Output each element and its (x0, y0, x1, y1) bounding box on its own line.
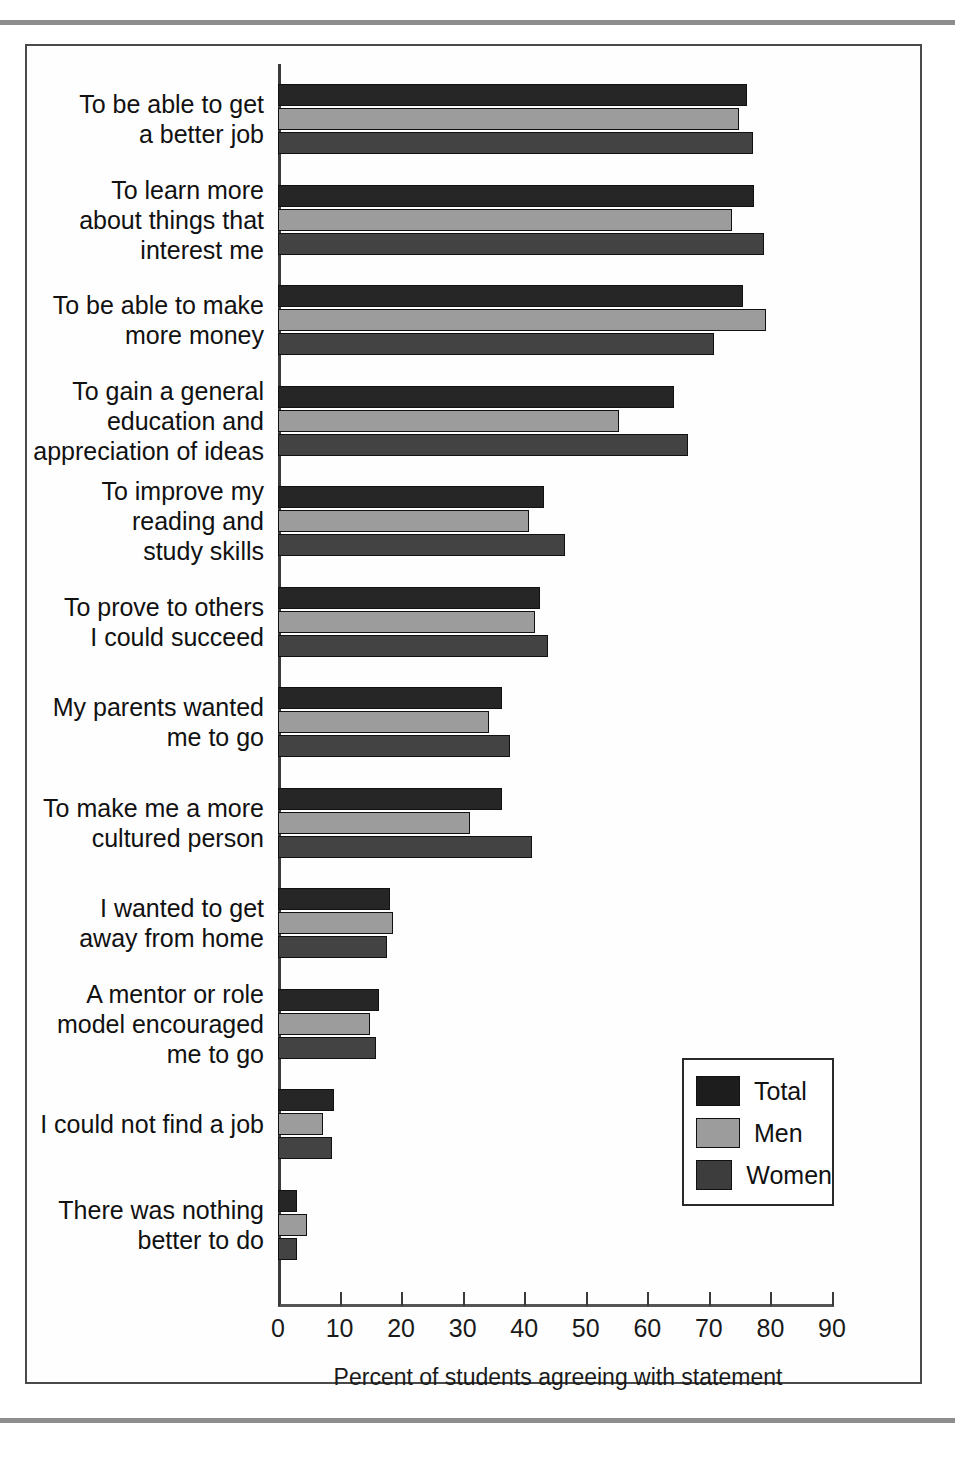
bar-group: To be able to get a better job (278, 84, 878, 154)
bar-men (278, 108, 739, 130)
bar-total (278, 788, 502, 810)
x-tick-label: 80 (748, 1314, 792, 1343)
bar-men (278, 711, 489, 733)
bar-women (278, 434, 688, 456)
top-rule (0, 20, 955, 25)
x-tick-label: 50 (564, 1314, 608, 1343)
bar-men (278, 1113, 323, 1135)
bar-men (278, 410, 619, 432)
x-tick-label: 10 (318, 1314, 362, 1343)
x-axis-line (278, 1304, 834, 1307)
legend-label-men: Men (754, 1119, 803, 1148)
legend-label-women: Women (746, 1161, 832, 1190)
x-tick-label: 0 (256, 1314, 300, 1343)
bar-group: To improve my reading and study skills (278, 486, 878, 556)
bar-total (278, 687, 502, 709)
x-tick (278, 1292, 280, 1306)
bar-group: To be able to make more money (278, 285, 878, 355)
bar-women (278, 132, 753, 154)
x-tick-label: 90 (810, 1314, 854, 1343)
bar-total (278, 486, 544, 508)
legend-label-total: Total (754, 1077, 807, 1106)
bar-men (278, 510, 529, 532)
x-tick (770, 1292, 772, 1306)
bar-total (278, 1190, 297, 1212)
x-tick (524, 1292, 526, 1306)
bar-men (278, 1214, 307, 1236)
category-label: To improve my reading and study skills (0, 476, 264, 566)
bar-total (278, 185, 754, 207)
bar-women (278, 1238, 297, 1260)
category-label: I wanted to get away from home (0, 893, 264, 953)
bar-total (278, 989, 379, 1011)
x-tick (647, 1292, 649, 1306)
bar-group: A mentor or role model encouraged me to … (278, 989, 878, 1059)
x-tick (463, 1292, 465, 1306)
bar-women (278, 836, 532, 858)
bar-group: To prove to others I could succeed (278, 587, 878, 657)
legend-item-women: Women (696, 1154, 832, 1196)
category-label: To learn more about things that interest… (0, 175, 264, 265)
legend-swatch-women (696, 1160, 732, 1190)
category-label: A mentor or role model encouraged me to … (0, 979, 264, 1069)
legend: Total Men Women (682, 1058, 834, 1206)
bar-men (278, 611, 535, 633)
legend-item-men: Men (696, 1112, 832, 1154)
bar-women (278, 233, 764, 255)
chart-frame: 0102030405060708090 To be able to get a … (25, 44, 922, 1384)
x-tick-label: 30 (441, 1314, 485, 1343)
x-tick (401, 1292, 403, 1306)
bar-men (278, 309, 766, 331)
category-label: To gain a general education and apprecia… (0, 376, 264, 466)
category-label: To make me a more cultured person (0, 793, 264, 853)
category-label: To be able to make more money (0, 290, 264, 350)
bar-men (278, 209, 732, 231)
category-label: To be able to get a better job (0, 89, 264, 149)
category-label: To prove to others I could succeed (0, 592, 264, 652)
bar-women (278, 333, 714, 355)
bar-total (278, 285, 743, 307)
category-label: I could not find a job (0, 1109, 264, 1139)
bar-men (278, 1013, 370, 1035)
x-tick (340, 1292, 342, 1306)
category-label: There was nothing better to do (0, 1195, 264, 1255)
bottom-rule (0, 1418, 955, 1423)
bar-women (278, 1037, 376, 1059)
x-axis-title: Percent of students agreeing with statem… (153, 1364, 955, 1391)
bar-total (278, 84, 747, 106)
bar-group: To learn more about things that interest… (278, 185, 878, 255)
bar-group: To make me a more cultured person (278, 788, 878, 858)
bar-total (278, 587, 540, 609)
bar-women (278, 735, 510, 757)
x-tick-label: 60 (625, 1314, 669, 1343)
x-tick-label: 70 (687, 1314, 731, 1343)
bar-group: I wanted to get away from home (278, 888, 878, 958)
legend-item-total: Total (696, 1070, 832, 1112)
x-tick-label: 20 (379, 1314, 423, 1343)
legend-swatch-men (696, 1118, 740, 1148)
bar-total (278, 1089, 334, 1111)
x-tick (709, 1292, 711, 1306)
bar-women (278, 635, 548, 657)
bar-group: To gain a general education and apprecia… (278, 386, 878, 456)
bar-men (278, 812, 470, 834)
category-label: My parents wanted me to go (0, 692, 264, 752)
x-tick-label: 40 (502, 1314, 546, 1343)
bar-group: My parents wanted me to go (278, 687, 878, 757)
bar-women (278, 936, 387, 958)
legend-swatch-total (696, 1076, 740, 1106)
bar-women (278, 1137, 332, 1159)
bar-women (278, 534, 565, 556)
x-tick (832, 1292, 834, 1306)
bar-total (278, 888, 390, 910)
bar-total (278, 386, 674, 408)
x-tick (586, 1292, 588, 1306)
bar-men (278, 912, 393, 934)
